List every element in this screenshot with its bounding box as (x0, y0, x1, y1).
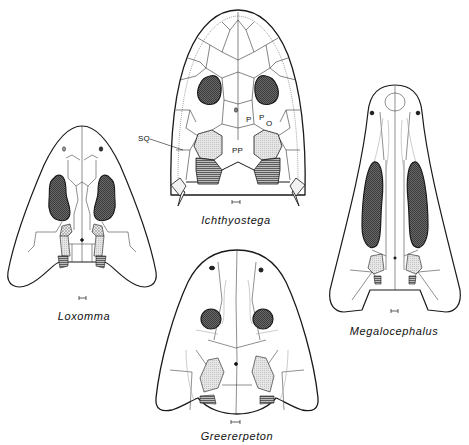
greererpeton-pineal-foramen (235, 363, 238, 366)
ichthyostega-scale-bar (232, 200, 240, 204)
loxomma-tabular-right (96, 256, 106, 268)
bone-label-parietal: P (246, 115, 252, 124)
greererpeton-outline (156, 250, 318, 414)
loxomma-supratemporal-left (60, 236, 70, 256)
loxomma-naris-left (63, 147, 66, 151)
greererpeton-orbit-right (253, 309, 273, 329)
ichthyostega-pineal-foramen (234, 108, 237, 112)
megalocephalus-pineal-foramen (394, 257, 396, 259)
loxomma-naris-right (99, 147, 103, 151)
greererpeton-naris-right (259, 268, 263, 272)
caption-greererpeton: Greererpeton (201, 430, 274, 442)
skull-loxomma (8, 126, 157, 300)
megalocephalus-tabular-right (409, 276, 416, 284)
megalocephalus-scale-bar (391, 309, 398, 313)
megalocephalus-naris-right (416, 111, 420, 115)
loxomma-scale-bar (79, 296, 86, 300)
bone-label-postparietal: PP (232, 146, 243, 155)
bone-label-postorbital-o: O (266, 119, 272, 128)
loxomma-pineal-foramen (81, 239, 84, 242)
skull-ichthyostega (150, 10, 305, 206)
greererpeton-tabular-right (260, 396, 274, 404)
megalocephalus-naris-left (370, 111, 374, 115)
greererpeton-naris-left (210, 266, 215, 270)
skull-greererpeton (156, 250, 318, 424)
bone-label-squamosal: SQ (138, 134, 150, 143)
greererpeton-scale-bar (231, 420, 240, 424)
bone-label-postorbital-p: P (259, 113, 265, 122)
caption-loxomma: Loxomma (58, 310, 111, 322)
caption-ichthyostega: Ichthyostega (201, 214, 271, 226)
loxomma-supratemporal-right (94, 236, 104, 256)
caption-megalocephalus: Megalocephalus (350, 325, 439, 337)
skull-megalocephalus (330, 85, 461, 313)
loxomma-tabular-left (58, 256, 68, 268)
megalocephalus-tabular-left (374, 276, 381, 284)
greererpeton-orbit-left (201, 309, 221, 329)
greererpeton-tabular-left (200, 395, 216, 404)
